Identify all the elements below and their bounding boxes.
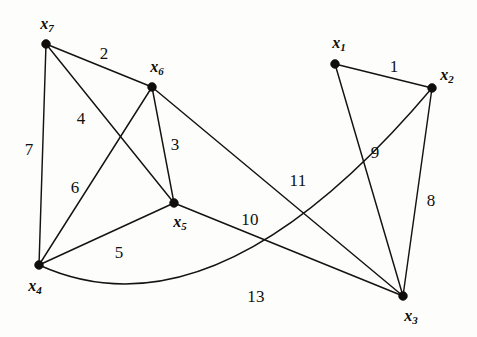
- vertex-label-base-x2: x: [440, 66, 448, 83]
- edge-weight-x6-x4: 6: [71, 179, 80, 196]
- edge-x1-x2: [335, 64, 432, 88]
- vertex-label-subscript-x6: 6: [158, 65, 164, 77]
- edge-weight-x7-x5: 4: [77, 110, 86, 127]
- vertex-label-x7: x7: [40, 16, 54, 34]
- vertex-label-x6: x6: [150, 59, 164, 77]
- vertex-label-subscript-x2: 2: [448, 73, 454, 85]
- edge-x6-x3: [152, 87, 403, 296]
- vertex-label-base-x1: x: [332, 34, 340, 51]
- edge-weight-x6-x3: 11: [290, 172, 307, 189]
- edge-x5-x3: [174, 203, 403, 296]
- vertex-dot-x6: [148, 83, 157, 92]
- vertex-label-base-x5: x: [173, 213, 181, 230]
- vertex-dot-x5: [170, 199, 179, 208]
- vertex-dot-x1: [331, 60, 340, 69]
- vertex-label-base-x7: x: [40, 15, 48, 32]
- edge-weight-x2-x4: 13: [247, 288, 264, 305]
- edge-x7-x4: [39, 44, 46, 265]
- edge-weight-x7-x6: 2: [100, 45, 109, 62]
- vertex-label-x4: x4: [28, 278, 42, 296]
- vertex-dot-x2: [428, 84, 437, 93]
- edge-x2-x4: [39, 88, 432, 284]
- vertex-label-x5: x5: [173, 214, 187, 232]
- vertex-label-x2: x2: [440, 67, 454, 85]
- edge-weight-x1-x2: 1: [390, 58, 399, 75]
- vertex-dot-x4: [35, 261, 44, 270]
- vertex-dot-x7: [42, 40, 51, 49]
- vertex-label-x3: x3: [404, 308, 418, 326]
- graph-canvas: [0, 0, 477, 337]
- vertex-label-subscript-x5: 5: [181, 220, 187, 232]
- edge-weight-x5-x3: 10: [241, 211, 258, 228]
- edge-weight-x2-x3: 8: [427, 192, 436, 209]
- vertex-label-subscript-x1: 1: [340, 41, 346, 53]
- vertex-label-subscript-x7: 7: [48, 22, 54, 34]
- vertex-label-x1: x1: [332, 35, 346, 53]
- vertex-dot-x3: [399, 292, 408, 301]
- edges-group: [39, 44, 432, 296]
- vertices-group: [35, 40, 437, 301]
- edge-weight-x7-x4: 7: [25, 141, 34, 158]
- edge-x1-x3: [335, 64, 403, 296]
- graph-figure: 123456789101113x1x2x3x4x5x6x7: [0, 0, 477, 337]
- vertex-label-subscript-x3: 3: [412, 314, 418, 326]
- edge-weight-x1-x3: 9: [371, 144, 380, 161]
- vertex-label-base-x4: x: [28, 277, 36, 294]
- vertex-label-base-x3: x: [404, 307, 412, 324]
- edge-weight-x6-x5: 3: [171, 136, 180, 153]
- edge-weight-x4-x5: 5: [115, 244, 124, 261]
- vertex-label-subscript-x4: 4: [36, 284, 42, 296]
- vertex-label-base-x6: x: [150, 58, 158, 75]
